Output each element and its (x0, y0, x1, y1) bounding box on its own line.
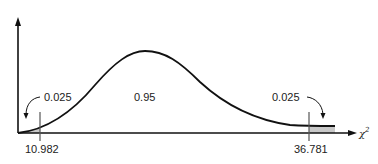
right-tail-shade (309, 126, 335, 133)
y-axis-arrow-icon (15, 17, 21, 26)
left-tail-area-label: 0.025 (44, 91, 72, 103)
left-pointer-arrow-icon (26, 97, 40, 115)
left-critical-value-label: 10.982 (25, 143, 59, 155)
right-tail-area-label: 0.025 (272, 91, 300, 103)
center-area-label: 0.95 (134, 91, 155, 103)
right-pointer-arrowhead-icon (321, 113, 326, 119)
chi-square-chart: 0.025 0.95 0.025 10.982 36.781 χ2 (0, 0, 378, 164)
right-pointer-arrow-icon (307, 97, 323, 114)
x-axis-label: χ2 (358, 126, 370, 139)
left-pointer-arrowhead-icon (24, 113, 29, 119)
right-critical-value-label: 36.781 (294, 143, 328, 155)
x-axis-arrow-icon (348, 130, 357, 136)
